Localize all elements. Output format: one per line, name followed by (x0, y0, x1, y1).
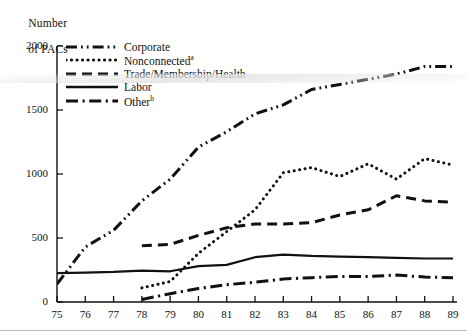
x-tick-83: 83 (271, 308, 295, 320)
x-tick-88: 88 (413, 308, 437, 320)
legend-footnote-marker: a (190, 53, 193, 62)
legend-label: Trade/Membership/Health (124, 68, 246, 80)
x-tick-87: 87 (384, 308, 408, 320)
chart-legend: CorporateNonconnectedaTrade/Membership/H… (66, 40, 266, 108)
series-line-trade-membership-health (142, 196, 453, 246)
legend-item-nonconnected[interactable]: Nonconnecteda (66, 54, 266, 68)
x-tick-77: 77 (102, 308, 126, 320)
legend-label: Labor (124, 81, 151, 93)
y-tick-2000: 2000 (14, 39, 48, 51)
y-tick-0: 0 (14, 295, 48, 307)
x-tick-78: 78 (130, 308, 154, 320)
y-tick-1000: 1000 (14, 167, 48, 179)
x-tick-89: 89 (441, 308, 465, 320)
legend-footnote-marker: b (150, 94, 154, 103)
legend-swatch-icon (66, 95, 118, 107)
legend-swatch-icon (66, 68, 118, 80)
x-tick-80: 80 (186, 308, 210, 320)
legend-swatch-icon (66, 54, 118, 66)
chart-figure: Number of PACs 0500100015002000 75767778… (0, 0, 467, 334)
x-tick-81: 81 (215, 308, 239, 320)
y-tick-1500: 1500 (14, 103, 48, 115)
series-line-other (142, 275, 453, 299)
x-tick-79: 79 (158, 308, 182, 320)
legend-label: Corporate (124, 41, 170, 53)
x-tick-86: 86 (356, 308, 380, 320)
legend-item-other[interactable]: Otherb (66, 94, 266, 108)
x-tick-75: 75 (45, 308, 69, 320)
page-rule (0, 330, 467, 331)
x-tick-84: 84 (300, 308, 324, 320)
legend-swatch-icon (66, 81, 118, 93)
legend-item-trade-membership-health[interactable]: Trade/Membership/Health (66, 67, 266, 81)
x-tick-82: 82 (243, 308, 267, 320)
series-line-labor (57, 255, 453, 274)
legend-swatch-icon (66, 41, 118, 53)
x-tick-85: 85 (328, 308, 352, 320)
y-axis-title-line1: Number (28, 17, 67, 29)
x-tick-76: 76 (73, 308, 97, 320)
y-tick-500: 500 (14, 231, 48, 243)
legend-label: Otherb (124, 94, 154, 108)
legend-item-labor[interactable]: Labor (66, 81, 266, 95)
legend-label: Nonconnecteda (124, 53, 194, 67)
legend-item-corporate[interactable]: Corporate (66, 40, 266, 54)
